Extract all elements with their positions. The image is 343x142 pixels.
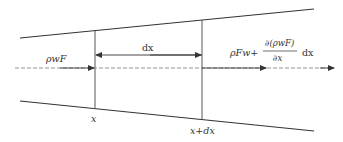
section-x-dx-label: x+dx: [190, 125, 215, 136]
section-x-label: x: [91, 113, 97, 124]
outflow-numerator-label: ∂(ρwF): [265, 38, 294, 48]
upper-wall-line: [20, 9, 314, 38]
dx-span-label: dx: [142, 42, 154, 53]
lower-wall-line: [20, 101, 314, 131]
outflow-denominator-label: ∂x: [273, 53, 282, 63]
inflow-label: ρwF: [45, 53, 67, 64]
control-volume-diagram: ρwF dx ρFw+ ∂(ρwF) ∂x dx x x+dx: [0, 0, 343, 142]
outflow-prefix-label: ρFw+: [229, 47, 258, 58]
outflow-suffix-label: dx: [302, 47, 314, 58]
